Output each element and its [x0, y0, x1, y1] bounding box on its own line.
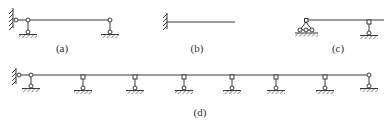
panel-label-c: (c)	[332, 42, 344, 54]
hinge-icon	[14, 18, 18, 22]
panel-c-beam-diagram	[295, 19, 384, 40]
fixed-wall-support	[12, 68, 16, 85]
hinge-icon	[17, 73, 21, 77]
link-support	[223, 75, 241, 94]
triangle-pin-support	[295, 19, 318, 37]
link-support	[74, 75, 92, 94]
panel-label-d: (d)	[194, 106, 207, 118]
fixed-wall-support	[9, 8, 13, 30]
pin-support	[19, 22, 37, 38]
link-support	[267, 75, 285, 94]
panel-label-b: (b)	[191, 42, 204, 54]
panel-d-continuous-beam-diagram	[12, 68, 378, 94]
panel-b-cantilever-diagram	[163, 13, 235, 30]
link-support	[126, 75, 144, 94]
pin-support	[22, 77, 40, 92]
link-support	[175, 75, 193, 94]
link-support	[360, 20, 378, 39]
panel-a-beam-diagram	[9, 8, 119, 38]
hinge-icon	[367, 73, 371, 77]
panel-label-a: (a)	[56, 42, 68, 54]
pin-support	[360, 77, 378, 92]
pin-support	[101, 22, 119, 38]
fixed-wall-support	[163, 13, 167, 30]
hinge-icon	[26, 18, 30, 22]
hinge-icon	[108, 18, 112, 22]
hinge-icon	[29, 73, 33, 77]
link-support	[316, 75, 334, 94]
